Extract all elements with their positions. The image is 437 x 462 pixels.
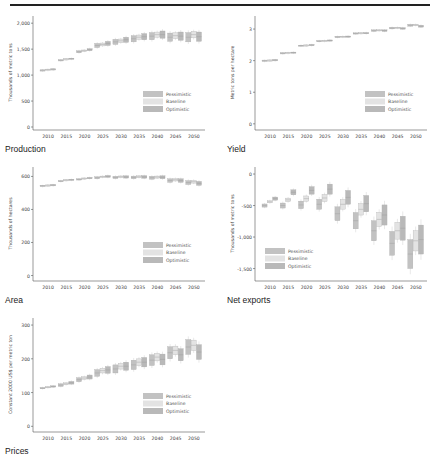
yield-plot: 0123Metric tons per hectare2010201520202… [222, 12, 437, 162]
panel-title: Prices [5, 446, 29, 456]
boxes [40, 175, 201, 188]
production-plot: 05001,0001,5002,000Thousands of metric t… [0, 12, 215, 162]
x-tick-label: 2020 [79, 134, 91, 139]
legend-swatch-baseline [143, 250, 163, 256]
x-tick-label: 2045 [170, 436, 182, 441]
y-tick-label: 1,500 [17, 47, 30, 52]
y-axis-label: Thousands of metric tons [230, 194, 235, 254]
area-plot: 0200400600Thousands of hectares201020152… [0, 163, 215, 313]
x-tick-label: 2015 [60, 285, 72, 290]
legend-label: Optimistic [288, 264, 312, 269]
legend: PessimisticBaselineOptimistic [143, 242, 192, 263]
panel-production: 05001,0001,5002,000Thousands of metric t… [0, 12, 215, 162]
y-axis-label: Thousands of hectares [8, 197, 13, 251]
legend-swatch-optimistic [143, 408, 163, 414]
x-tick-label: 2040 [374, 285, 386, 290]
y-axis-label: Metric tons per hectare [230, 45, 235, 99]
legend-swatch-pessimistic [265, 248, 285, 254]
prices-plot: 0100200300Constant 2000 US$ per metric t… [0, 314, 215, 462]
panel-prices: 0100200300Constant 2000 US$ per metric t… [0, 314, 215, 462]
x-tick-label: 2050 [410, 285, 422, 290]
legend-swatch-pessimistic [143, 91, 163, 97]
y-tick-label: 200 [21, 357, 30, 362]
x-tick-label: 2010 [264, 134, 276, 139]
x-tick-label: 2050 [188, 134, 200, 139]
x-tick-label: 2035 [133, 134, 145, 139]
legend-label: Optimistic [166, 258, 190, 263]
x-tick-label: 2030 [115, 134, 127, 139]
x-tick-label: 2015 [60, 134, 72, 139]
legend: PessimisticBaselineOptimistic [265, 248, 314, 269]
boxes [40, 29, 201, 72]
x-tick-label: 2045 [392, 134, 404, 139]
legend-label: Pessimistic [288, 249, 314, 254]
x-tick-label: 2040 [374, 134, 386, 139]
x-tick-label: 2025 [97, 436, 109, 441]
legend-label: Pessimistic [166, 243, 192, 248]
x-tick-label: 2040 [152, 436, 164, 441]
x-tick-label: 2020 [79, 436, 91, 441]
boxes [40, 336, 201, 389]
y-tick-label: 2 [249, 59, 252, 64]
legend-label: Baseline [166, 401, 186, 406]
y-tick-label: 2,000 [17, 21, 30, 26]
legend-label: Optimistic [388, 107, 412, 112]
x-tick-label: 2035 [355, 134, 367, 139]
y-tick-label: -1,500 [237, 267, 252, 272]
y-tick-label: -1,000 [237, 235, 252, 240]
x-tick-label: 2025 [319, 134, 331, 139]
y-tick-label: 300 [21, 323, 30, 328]
net_exports-plot: -1,500-1,000-5000Thousands of metric ton… [222, 163, 437, 313]
x-tick-label: 2045 [170, 285, 182, 290]
panel-title: Yield [227, 144, 246, 154]
panel-area: 0200400600Thousands of hectares201020152… [0, 163, 215, 313]
y-tick-label: -500 [242, 204, 253, 209]
x-tick-label: 2010 [42, 285, 54, 290]
panel-title: Area [5, 295, 23, 305]
legend-label: Baseline [166, 99, 186, 104]
axes: 0100200300Constant 2000 US$ per metric t… [8, 318, 205, 441]
y-axis-label: Constant 2000 US$ per metric ton [8, 335, 13, 414]
legend-swatch-pessimistic [365, 91, 385, 97]
x-tick-label: 2010 [42, 436, 54, 441]
y-tick-label: 0 [27, 274, 30, 279]
y-tick-label: 600 [21, 174, 30, 179]
x-tick-label: 2030 [115, 436, 127, 441]
y-tick-label: 0 [249, 172, 252, 177]
legend-swatch-optimistic [365, 106, 385, 112]
x-tick-label: 2015 [282, 134, 294, 139]
x-tick-label: 2030 [337, 285, 349, 290]
x-tick-label: 2030 [337, 134, 349, 139]
legend: PessimisticBaselineOptimistic [143, 393, 192, 414]
legend-label: Baseline [166, 250, 186, 255]
legend-label: Pessimistic [166, 92, 192, 97]
x-tick-label: 2015 [282, 285, 294, 290]
y-tick-label: 0 [27, 125, 30, 130]
legend-label: Baseline [288, 256, 308, 261]
y-tick-label: 3 [249, 27, 252, 32]
x-tick-label: 2045 [392, 285, 404, 290]
x-tick-label: 2040 [152, 134, 164, 139]
legend-swatch-optimistic [265, 263, 285, 269]
x-tick-label: 2020 [301, 285, 313, 290]
y-tick-label: 1 [249, 90, 252, 95]
y-axis-label: Thousands of metric tons [8, 43, 13, 103]
panel-net-exports: -1,500-1,000-5000Thousands of metric ton… [222, 163, 437, 313]
x-tick-label: 2025 [97, 134, 109, 139]
y-tick-label: 200 [21, 240, 30, 245]
x-tick-label: 2025 [97, 285, 109, 290]
legend-label: Baseline [388, 99, 408, 104]
panel-yield: 0123Metric tons per hectare2010201520202… [222, 12, 437, 162]
legend-swatch-baseline [143, 99, 163, 105]
y-tick-label: 0 [27, 424, 30, 429]
y-tick-label: 400 [21, 207, 30, 212]
legend: PessimisticBaselineOptimistic [143, 91, 192, 112]
y-tick-label: 500 [21, 99, 30, 104]
boxes [262, 182, 423, 274]
legend-label: Optimistic [166, 107, 190, 112]
x-tick-label: 2045 [170, 134, 182, 139]
x-tick-label: 2035 [355, 285, 367, 290]
legend-swatch-optimistic [143, 106, 163, 112]
legend-swatch-baseline [143, 401, 163, 407]
axes: 0200400600Thousands of hectares201020152… [8, 167, 205, 290]
